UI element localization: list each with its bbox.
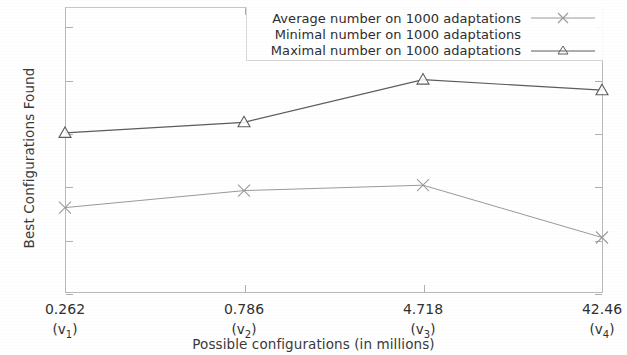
y-tick-mark xyxy=(595,134,602,135)
x-tick-value: 42.46 xyxy=(582,301,622,317)
x-tick-variant: (v4) xyxy=(532,320,627,342)
x-tick-mark xyxy=(424,285,425,292)
y-tick-mark xyxy=(66,241,73,242)
y-tick-mark xyxy=(595,294,602,295)
y-tick-mark xyxy=(595,241,602,242)
y-tick-mark xyxy=(66,27,73,28)
legend-item-average: Average number on 1000 adaptations xyxy=(247,10,603,26)
x-tick-value: 0.786 xyxy=(224,301,264,317)
y-tick-mark xyxy=(66,134,73,135)
legend-label-minimal: Minimal number on 1000 adaptations xyxy=(275,27,521,42)
x-tick-mark xyxy=(245,285,246,292)
y-tick-mark xyxy=(66,81,73,82)
legend-label-average: Average number on 1000 adaptations xyxy=(272,11,521,26)
y-tick-mark xyxy=(595,187,602,188)
x-tick-variant: (v2) xyxy=(174,320,314,342)
x-tick-variant: (v3) xyxy=(353,320,493,342)
y-tick-mark xyxy=(66,187,73,188)
legend-item-maximal: Maximal number on 1000 adaptations xyxy=(247,42,603,58)
x-tick-value: 4.718 xyxy=(403,301,443,317)
legend-marker-triangle-icon xyxy=(529,42,597,58)
chart-legend: Average number on 1000 adaptations Minim… xyxy=(246,7,603,61)
y-tick-mark xyxy=(595,81,602,82)
y-tick-mark xyxy=(66,294,73,295)
x-tick-label: 4.718(v3) xyxy=(353,300,493,342)
legend-item-minimal: Minimal number on 1000 adaptations xyxy=(247,26,603,42)
x-tick-variant: (v1) xyxy=(0,320,135,342)
x-tick-label: 0.786(v2) xyxy=(174,300,314,342)
legend-label-maximal: Maximal number on 1000 adaptations xyxy=(271,43,521,58)
legend-marker-x-icon xyxy=(529,10,597,26)
x-tick-label: 0.262(v1) xyxy=(0,300,135,342)
x-tick-label: 42.46(v4) xyxy=(532,300,627,342)
x-tick-value: 0.262 xyxy=(45,301,85,317)
chart-figure: Best Configurations Found Possible confi… xyxy=(0,0,627,355)
y-axis-title: Best Configurations Found xyxy=(21,28,37,288)
